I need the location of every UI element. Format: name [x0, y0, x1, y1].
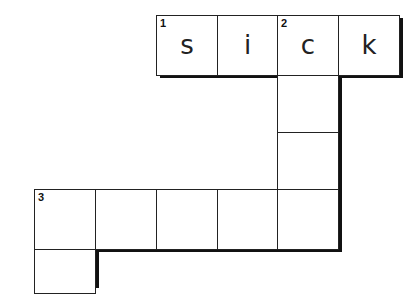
crossword-cell-1-across-2[interactable]: i [217, 15, 278, 76]
cell-letter: c [278, 30, 338, 60]
cell-letter: i [218, 30, 277, 60]
crossword-cell-1-across-3[interactable]: 2 c [277, 15, 339, 76]
crossword-cell-1-across-1[interactable]: 1 s [156, 15, 218, 76]
cell-letter: s [157, 30, 217, 60]
crossword-cell-2-down-3[interactable] [277, 132, 339, 190]
crossword-cell-3-across-1[interactable]: 3 [34, 189, 96, 250]
crossword-cell-3-across-4[interactable] [217, 189, 278, 250]
cell-letter: k [339, 30, 399, 60]
crossword-cell-3-down-2[interactable] [34, 249, 96, 294]
clue-number: 3 [38, 191, 44, 203]
crossword-cell-2-down-2[interactable] [277, 75, 339, 133]
crossword-cell-3-across-2[interactable] [95, 189, 157, 250]
clue-number: 2 [281, 17, 287, 29]
crossword-cell-3-across-5[interactable] [277, 189, 339, 250]
crossword-cell-1-across-4[interactable]: k [338, 15, 400, 76]
clue-number: 1 [160, 17, 166, 29]
crossword-cell-3-across-3[interactable] [156, 189, 218, 250]
